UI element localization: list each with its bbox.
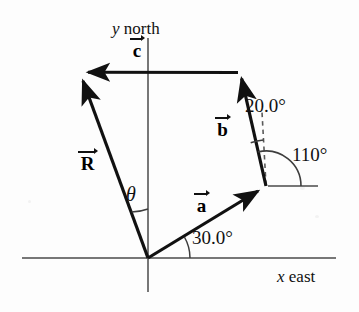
- angle-label-110: 110°: [292, 145, 327, 164]
- x-axis-symbol: x: [277, 267, 285, 286]
- vector-label-c: c: [129, 34, 145, 62]
- angle-arc-30: [184, 237, 190, 258]
- vector-label-R: R: [77, 147, 98, 175]
- vector-label-a: a: [193, 189, 210, 217]
- vector-arrow-overbar-b: [214, 113, 231, 120]
- x-axis-label: x east: [277, 268, 315, 285]
- angle-arc-theta: [132, 209, 148, 212]
- vector-arrow-overbar-c: [129, 34, 145, 41]
- angle-label-30: 30.0°: [192, 228, 233, 247]
- vector-b-name: b: [214, 119, 231, 141]
- angle-label-20: 20.0°: [245, 96, 286, 115]
- vector-R-name: R: [77, 153, 98, 175]
- vector-label-b: b: [214, 113, 231, 141]
- x-axis-word: east: [289, 267, 315, 286]
- vector-diagram-figure: y north x east c b a R 30.0° 20.0° 110° …: [0, 0, 359, 312]
- vector-arrow-overbar-R: [77, 147, 98, 154]
- vector-a-name: a: [193, 195, 210, 217]
- vector-c-name: c: [129, 40, 145, 62]
- angle-label-theta: θ: [126, 184, 136, 204]
- y-axis-symbol: y: [112, 19, 120, 38]
- vector-arrow-overbar-a: [193, 189, 210, 196]
